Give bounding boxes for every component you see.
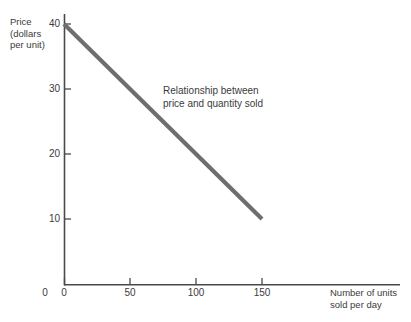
- x-axis-title: Number of units sold per day: [330, 287, 397, 310]
- y-tick-label-30: 30: [38, 84, 60, 94]
- demand-line-series: [64, 24, 262, 219]
- x-axis-ticks: [65, 278, 263, 285]
- chart-canvas: [0, 0, 411, 322]
- x-tick-label-100: 100: [181, 288, 211, 298]
- y-axis-ticks: [65, 24, 72, 219]
- demand-curve-chart: Price (dollars per unit) Number of units…: [0, 0, 411, 322]
- series-annotation: Relationship between price and quantity …: [163, 84, 263, 110]
- x-tick-label-50: 50: [115, 288, 145, 298]
- x-tick-label-150: 150: [247, 288, 277, 298]
- y-tick-label-40: 40: [38, 19, 60, 29]
- x-tick-label-0: 0: [49, 288, 79, 298]
- y-tick-label-10: 10: [38, 214, 60, 224]
- y-tick-label-20: 20: [38, 149, 60, 159]
